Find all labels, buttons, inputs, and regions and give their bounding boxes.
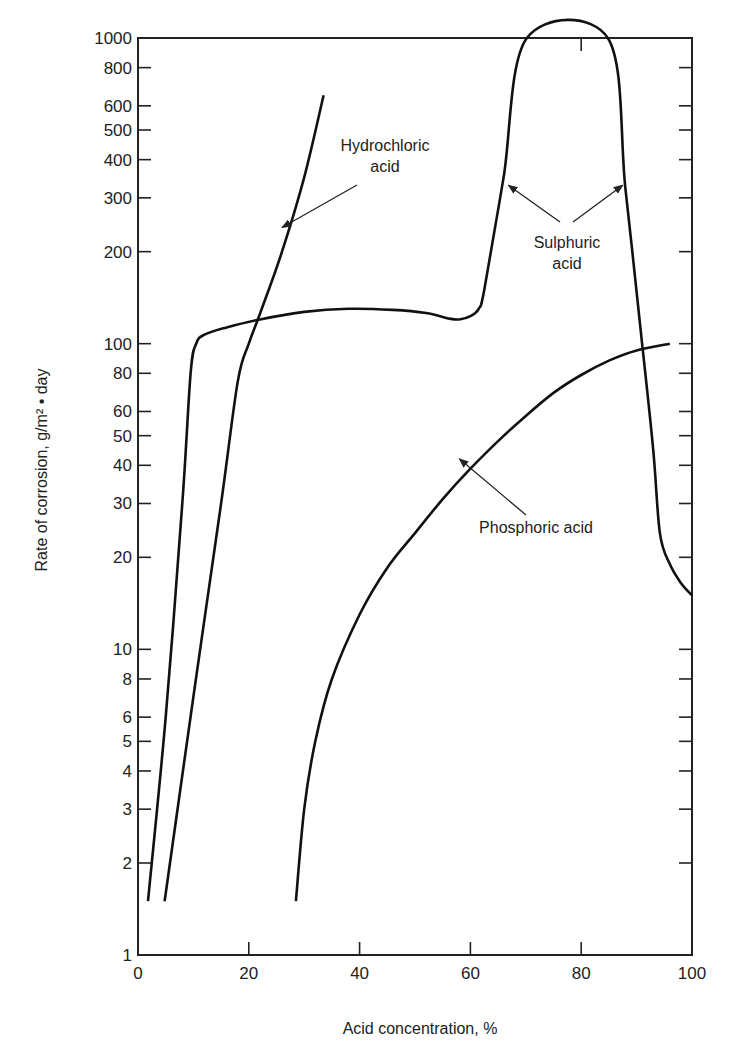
x-tick-label: 0	[133, 964, 142, 983]
sulphuric-acid-label: Sulphuric	[534, 234, 601, 251]
hydrochloric-acid-label: acid	[370, 158, 399, 175]
y-tick-label: 4	[123, 762, 132, 781]
sulphuric-acid-arrow	[573, 185, 623, 222]
y-tick-label: 80	[113, 364, 132, 383]
x-tick-label: 100	[678, 964, 706, 983]
sulphuric-acid-arrow	[508, 185, 560, 222]
hydrochloric-acid-label: Hydrochloric	[341, 137, 430, 154]
y-tick-label: 2	[123, 854, 132, 873]
y-tick-label: 50	[113, 427, 132, 446]
y-tick-label: 800	[104, 59, 132, 78]
y-tick-label: 30	[113, 494, 132, 513]
y-tick-label: 8	[123, 670, 132, 689]
y-axis-title: Rate of corrosion, g/m² • day	[33, 368, 50, 571]
hydrochloric-acid-curve	[165, 95, 324, 901]
y-tick-label: 400	[104, 151, 132, 170]
y-tick-label: 500	[104, 121, 132, 140]
corrosion-rate-chart: 1234568102030405060801002003004005006008…	[0, 0, 740, 1063]
hydrochloric-acid-arrow	[282, 185, 357, 227]
y-tick-label: 1	[123, 946, 132, 965]
y-tick-label: 6	[123, 708, 132, 727]
x-axis-title: Acid concentration, %	[343, 1020, 498, 1037]
x-tick-label: 20	[239, 964, 258, 983]
annotations: HydrochloricacidSulphuricacidPhosphoric …	[282, 137, 623, 536]
y-tick-label: 1000	[94, 29, 132, 48]
y-tick-label: 3	[123, 800, 132, 819]
phosphoric-acid-label: Phosphoric acid	[479, 519, 593, 536]
y-tick-label: 20	[113, 548, 132, 567]
x-tick-label: 80	[572, 964, 591, 983]
x-tick-label: 60	[461, 964, 480, 983]
y-tick-label: 40	[113, 456, 132, 475]
phosphoric-acid-arrow	[459, 459, 526, 515]
y-tick-label: 60	[113, 402, 132, 421]
x-tick-label: 40	[350, 964, 369, 983]
sulphuric-acid-label: acid	[552, 255, 581, 272]
y-tick-label: 5	[123, 732, 132, 751]
y-tick-label: 200	[104, 243, 132, 262]
y-tick-label: 100	[104, 335, 132, 354]
y-tick-label: 600	[104, 97, 132, 116]
phosphoric-acid-curve	[296, 344, 670, 902]
y-tick-label: 300	[104, 189, 132, 208]
y-tick-label: 10	[113, 640, 132, 659]
